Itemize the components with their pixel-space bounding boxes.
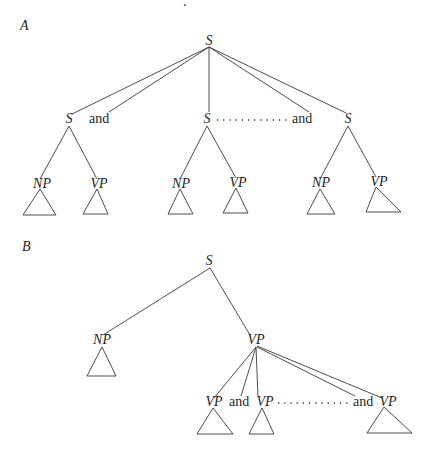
a-edge-s1-np xyxy=(40,126,69,179)
a-s2-np: NP xyxy=(171,176,190,191)
b-vp3: VP xyxy=(379,394,397,409)
b-and-1: and xyxy=(229,394,249,409)
a-and-1: and xyxy=(89,111,109,126)
a-edge-s1-vp xyxy=(69,126,97,179)
b-edge-s-np xyxy=(103,268,210,335)
a-s3-vp-triangle xyxy=(366,187,401,212)
panel-b-label: B xyxy=(22,239,31,254)
b-vp2-triangle xyxy=(249,408,274,434)
panel-b: B S NP VP VP and VP and VP xyxy=(22,239,412,434)
b-edge-vp-vp3 xyxy=(257,346,382,398)
a-s3-np: NP xyxy=(311,175,330,190)
b-vp1: VP xyxy=(205,394,223,409)
b-vp: VP xyxy=(247,332,265,347)
b-edge-vp-vp1 xyxy=(214,347,256,398)
a-edge-root-and2 xyxy=(209,47,309,112)
a-s1-vp-triangle xyxy=(83,189,108,214)
a-s1-np-triangle xyxy=(23,189,56,215)
b-edge-vp-and1 xyxy=(241,347,256,396)
b-vp3-triangle xyxy=(367,407,412,433)
a-s2-vp: VP xyxy=(229,175,247,190)
a-s3: S xyxy=(345,111,352,126)
a-edge-root-s1 xyxy=(72,47,209,114)
a-edge-s2-vp xyxy=(207,126,236,178)
a-edge-root-s3 xyxy=(209,47,346,113)
a-s1: S xyxy=(66,111,73,126)
b-edge-vp-and2 xyxy=(257,347,355,396)
a-s1-np: NP xyxy=(32,176,51,191)
b-np-triangle xyxy=(87,347,116,376)
b-edge-vp-vp2 xyxy=(256,347,258,397)
a-edge-s3-vp xyxy=(348,126,376,177)
panel-a: A S S and S and S NP VP NP VP NP VP xyxy=(19,18,401,215)
b-and-2: and xyxy=(353,394,373,409)
b-vp1-triangle xyxy=(197,408,233,434)
a-root-s: S xyxy=(206,33,213,48)
panel-a-label: A xyxy=(19,18,29,33)
a-s2: S xyxy=(204,111,211,126)
a-s3-vp: VP xyxy=(370,174,388,189)
a-s2-np-triangle xyxy=(168,189,193,214)
b-root-s: S xyxy=(206,253,213,268)
a-edge-s3-np xyxy=(320,126,348,179)
a-edge-s2-np xyxy=(180,126,207,179)
b-vp2: VP xyxy=(256,394,274,409)
a-edge-root-and1 xyxy=(109,47,209,112)
a-s2-vp-triangle xyxy=(223,188,248,213)
speck: . xyxy=(183,0,187,9)
a-s1-vp: VP xyxy=(90,176,108,191)
a-and-2: and xyxy=(292,111,312,126)
b-edge-s-vp xyxy=(210,268,250,335)
b-np: NP xyxy=(92,332,111,347)
coordination-tree-diagram: . A S S and S and S NP VP NP VP NP xyxy=(0,0,435,459)
a-s3-np-triangle xyxy=(307,189,335,214)
